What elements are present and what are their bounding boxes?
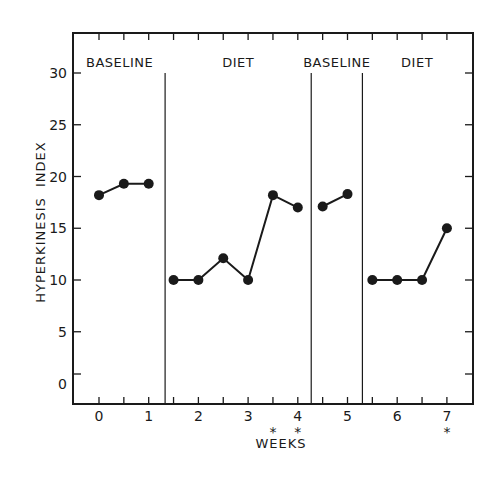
data-point xyxy=(268,190,278,200)
data-point xyxy=(343,189,353,199)
phase-label: DIET xyxy=(401,55,433,70)
x-tick-label: 5 xyxy=(343,408,352,424)
series-diet-2 xyxy=(367,223,452,285)
x-tick-label: 7 xyxy=(442,408,451,424)
data-point xyxy=(218,253,228,263)
y-tick-label: 5 xyxy=(58,324,67,340)
y-tick-label: 30 xyxy=(49,65,67,81)
plot-border xyxy=(73,33,473,404)
phase-label: DIET xyxy=(222,55,254,70)
plot-frame xyxy=(73,33,473,404)
phase-labels: BASELINEDIETBASELINEDIET xyxy=(86,55,433,70)
y-tick-label: 20 xyxy=(49,169,67,185)
x-tick-label: 3 xyxy=(244,408,253,424)
phase-dividers xyxy=(165,73,362,404)
x-tick-label: 2 xyxy=(194,408,203,424)
hyperkinesis-chart: 01234567051015202530 BASELINEDIETBASELIN… xyxy=(0,0,498,477)
data-point xyxy=(243,275,253,285)
x-tick-label: 1 xyxy=(144,408,153,424)
x-tick-label: 6 xyxy=(393,408,402,424)
phase-label: BASELINE xyxy=(303,55,370,70)
y-axis-title: HYPERKINESIS INDEX xyxy=(33,141,48,302)
y-tick-label: 0 xyxy=(58,376,67,392)
data-point xyxy=(293,203,303,213)
series-line xyxy=(174,195,298,280)
axis-ticks xyxy=(73,33,473,404)
series-diet-1 xyxy=(169,190,303,285)
data-point xyxy=(392,275,402,285)
y-tick-label: 10 xyxy=(49,272,67,288)
phase-label: BASELINE xyxy=(86,55,153,70)
data-point xyxy=(119,179,129,189)
x-tick-label: 4 xyxy=(293,408,302,424)
y-tick-label: 15 xyxy=(49,220,67,236)
data-point xyxy=(169,275,179,285)
axis-tick-labels: 01234567051015202530 xyxy=(49,65,451,424)
x-axis-title: WEEKS xyxy=(255,436,306,451)
series-line xyxy=(372,228,447,280)
y-tick-label: 25 xyxy=(49,117,67,133)
data-point xyxy=(94,190,104,200)
data-point xyxy=(193,275,203,285)
series-baseline-2 xyxy=(318,189,353,211)
data-series xyxy=(94,179,452,285)
data-point xyxy=(417,275,427,285)
data-point xyxy=(144,179,154,189)
data-point xyxy=(442,223,452,233)
asterisk-marker: * xyxy=(443,424,450,440)
data-point xyxy=(367,275,377,285)
data-point xyxy=(318,202,328,212)
x-tick-label: 0 xyxy=(95,408,104,424)
series-baseline-1 xyxy=(94,179,154,200)
